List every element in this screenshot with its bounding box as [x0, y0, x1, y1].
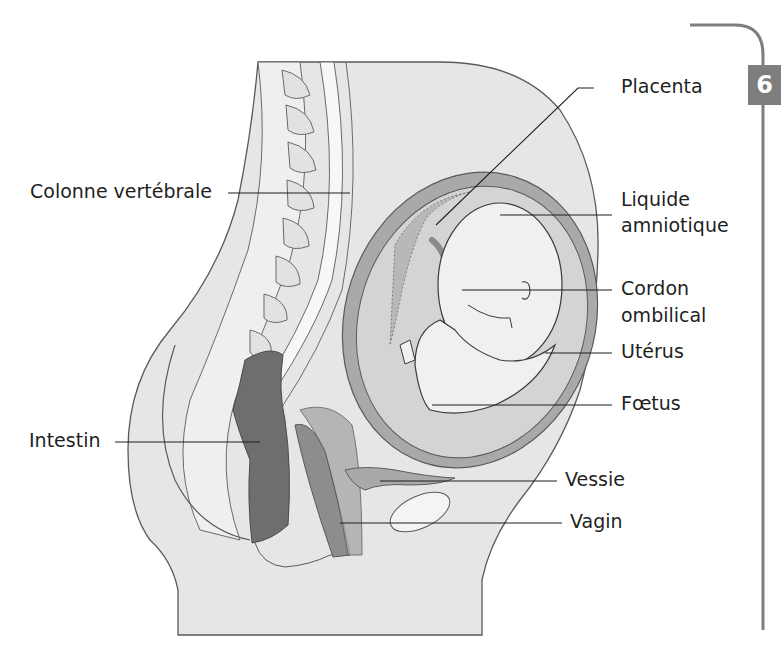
label-cordon-line1: Cordon	[621, 277, 689, 299]
label-uterus: Utérus	[621, 340, 684, 362]
anatomy-illustration	[0, 0, 781, 663]
label-liquide-line1: Liquide	[621, 188, 690, 210]
chapter-number-badge: 6	[748, 65, 781, 105]
label-cordon-line2: ombilical	[621, 304, 706, 326]
label-placenta: Placenta	[621, 75, 703, 97]
label-intestin: Intestin	[29, 429, 100, 451]
label-foetus: Fœtus	[621, 392, 681, 414]
label-vessie: Vessie	[565, 468, 625, 490]
label-liquide-line2: amniotique	[621, 214, 729, 236]
label-vagin: Vagin	[570, 510, 623, 532]
label-colonne-vertebrale: Colonne vertébrale	[30, 180, 212, 202]
chapter-marker-line	[690, 25, 763, 630]
